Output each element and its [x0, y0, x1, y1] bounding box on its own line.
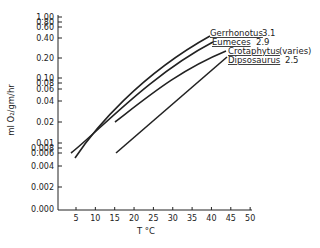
y-tick-label: 0.004	[31, 162, 54, 171]
x-axis-title: T °C	[136, 226, 155, 236]
legend-label-dipsosaurus: Dipsosaurus	[228, 55, 281, 65]
x-tick-label: 5	[73, 214, 78, 223]
x-tick-label: 15	[110, 214, 120, 223]
chart: 1.000.800.600.400.200.100.080.060.040.02…	[0, 0, 320, 248]
y-tick-label: 0.006	[31, 149, 54, 158]
legend-value-dipsosaurus: 2.5	[285, 55, 299, 65]
y-tick-label: 0.002	[31, 183, 54, 192]
x-tick-label: 50	[245, 214, 255, 223]
y-ticks: 1.000.800.600.400.200.100.080.060.040.02…	[31, 13, 62, 214]
y-tick-label: 0.04	[36, 97, 54, 106]
y-tick-label: 0.40	[36, 34, 54, 43]
x-tick-label: 30	[168, 214, 178, 223]
x-tick-label: 40	[206, 214, 216, 223]
series-dipsosaurus-line	[116, 57, 227, 153]
y-axis-title: ml O₂/gm/hr	[6, 84, 16, 136]
y-tick-label: 0.02	[36, 118, 54, 127]
x-ticks: 5101520253035404550	[73, 207, 255, 223]
x-tick-label: 10	[90, 214, 100, 223]
x-tick-label: 45	[226, 214, 236, 223]
y-tick-label: 0.06	[36, 85, 54, 94]
series-gerrhonotus-line	[75, 36, 210, 158]
x-tick-label: 20	[129, 214, 139, 223]
series-eumeces-line	[71, 42, 213, 153]
x-tick-label: 35	[187, 214, 197, 223]
y-tick-label: 0.000	[31, 205, 54, 214]
y-tick-label: 0.60	[36, 23, 54, 32]
x-tick-label: 25	[148, 214, 158, 223]
y-tick-label: 0.20	[36, 54, 54, 63]
